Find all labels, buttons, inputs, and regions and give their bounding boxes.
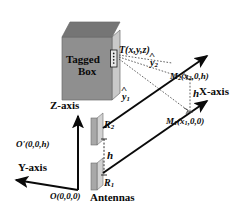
y2-symbol: y [150, 58, 154, 68]
antenna-lower-label: R1 [104, 178, 114, 189]
measurement-point-m2: M2(x2,0,h) [170, 72, 209, 81]
box-label-line2: Box [78, 66, 96, 77]
antenna-lower [91, 158, 103, 190]
z-axis-label: Z-axis [50, 100, 79, 111]
antenna-upper-label: R2 [104, 120, 114, 131]
antennas-caption: Antennas [90, 192, 135, 203]
measurement-point-m1: M1(x1,0,0) [166, 117, 204, 126]
y-axis-line [16, 180, 78, 190]
diagram-graphics [0, 0, 240, 213]
distance-y2-label: y2 [150, 58, 158, 69]
origin-prime-label: O'(0,0,h) [16, 140, 50, 149]
x-axis-label: X-axis [199, 86, 229, 97]
box-label-line1: Tagged [66, 54, 100, 65]
y1-symbol: y [122, 92, 126, 102]
distance-y1-label: y1 [122, 92, 130, 103]
rfid-tag-icon [111, 50, 118, 67]
y-axis-label: Y-axis [18, 162, 47, 173]
antenna-separation-label: h [107, 150, 113, 161]
figure-canvas: Tagged Box T(x,y,z) y2 y1 M2(x2,0,h) M1(… [0, 0, 240, 213]
antenna-upper [91, 113, 103, 145]
origin-label: O(0,0,0) [50, 192, 81, 201]
tag-point-label: T(x,y,z) [119, 45, 150, 55]
